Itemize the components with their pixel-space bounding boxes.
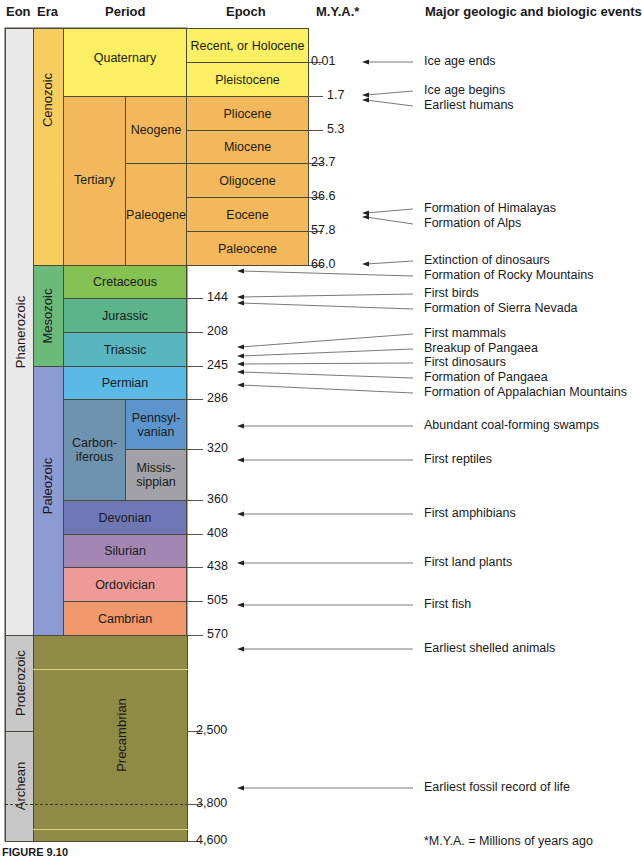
mya-label: 505	[207, 593, 228, 607]
period-devonian: Devonian	[63, 500, 187, 535]
mya-tick	[187, 366, 203, 367]
mya-label: 320	[207, 441, 228, 455]
event-label: Ice age ends	[424, 54, 496, 68]
mya-tick	[187, 449, 203, 450]
event-label: Formation of Himalayas	[424, 201, 556, 215]
period-tertiary: Tertiary	[63, 96, 126, 266]
epoch-recent-or-holocene: Recent, or Holocene	[186, 28, 309, 63]
subperiod-pennsyl-vanian: Pennsyl- vanian	[125, 399, 187, 450]
mya-label: 208	[207, 324, 228, 338]
event-label: Formation of Appalachian Mountains	[424, 385, 627, 399]
event-label: First fish	[424, 597, 471, 611]
epoch-miocene: Miocene	[186, 130, 309, 164]
precambrian-guide-line	[33, 829, 188, 830]
mya-label: 245	[207, 358, 228, 372]
event-label: Breakup of Pangaea	[424, 341, 538, 355]
mya-label: 66.0	[311, 257, 335, 271]
eon-proterozoic: Proterozoic	[5, 635, 34, 732]
event-label: First land plants	[424, 555, 512, 569]
precambrian-guide-line	[33, 669, 188, 670]
mya-tick	[309, 96, 323, 97]
mya-tick	[187, 399, 203, 400]
event-label: Extinction of dinosaurs	[424, 253, 550, 267]
era-label: Cenozoic	[41, 30, 55, 170]
era-mesozoic: Mesozoic	[33, 265, 64, 367]
era-cenozoic: Cenozoic	[33, 28, 64, 266]
epoch-pleistocene: Pleistocene	[186, 62, 309, 97]
event-label: Earliest humans	[424, 98, 514, 112]
event-label: Abundant coal-forming swamps	[424, 418, 599, 432]
mya-label: 438	[207, 559, 228, 573]
mya-label: 4,600	[196, 833, 227, 847]
mya-tick	[187, 332, 203, 333]
period-silurian: Silurian	[63, 534, 187, 568]
eon-archean: Archean	[5, 731, 34, 842]
event-label: Formation of Sierra Nevada	[424, 301, 578, 315]
archean-dashed-line	[5, 804, 188, 805]
period-permian: Permian	[63, 366, 187, 400]
epoch-oligocene: Oligocene	[186, 163, 309, 198]
era-label: Paleozoic	[41, 416, 55, 556]
mya-tick	[187, 601, 203, 602]
event-label: First amphibians	[424, 506, 516, 520]
event-label: Formation of Alps	[424, 216, 521, 230]
event-label: First birds	[424, 286, 479, 300]
mya-label: 5.3	[327, 122, 344, 136]
subperiod-paleogene: Paleogene	[125, 163, 187, 266]
mya-label: 0.01	[311, 54, 335, 68]
mya-tick	[187, 534, 203, 535]
era-precambrian: Precambrian	[33, 635, 188, 842]
event-label: Earliest fossil record of life	[424, 780, 570, 794]
eon-label: Archean	[14, 731, 28, 841]
period-cambrian: Cambrian	[63, 601, 187, 636]
subperiod-neogene: Neogene	[125, 96, 187, 164]
event-label: Earliest shelled animals	[424, 641, 555, 655]
period-carbon-iferous: Carbon- iferous	[63, 399, 126, 501]
era-label: Precambrian	[115, 665, 129, 805]
period-triassic: Triassic	[63, 332, 187, 367]
event-label: First dinosaurs	[424, 355, 506, 369]
mya-label: 1.7	[327, 88, 344, 102]
event-label: Formation of Rocky Mountains	[424, 268, 594, 282]
event-label: Formation of Pangaea	[424, 370, 548, 384]
period-ordovician: Ordovician	[63, 567, 187, 602]
footnote: *M.Y.A. = Millions of years ago	[424, 834, 593, 848]
epoch-paleocene: Paleocene	[186, 231, 309, 266]
event-label: First reptiles	[424, 452, 492, 466]
mya-label: 2,500	[196, 723, 227, 737]
mya-label: 3,800	[196, 796, 227, 810]
mya-label: 36.6	[311, 189, 335, 203]
mya-label: 23.7	[311, 155, 335, 169]
eon-label: Phanerozoic	[14, 28, 28, 635]
mya-label: 360	[207, 492, 228, 506]
period-cretaceous: Cretaceous	[63, 265, 187, 299]
eon-phanerozoic: Phanerozoic	[5, 28, 34, 636]
mya-label: 408	[207, 526, 228, 540]
mya-label: 286	[207, 391, 228, 405]
period-jurassic: Jurassic	[63, 298, 187, 333]
figure-label: FIGURE 9.10	[2, 846, 68, 858]
event-label: Ice age begins	[424, 83, 505, 97]
epoch-pliocene: Pliocene	[186, 96, 309, 131]
epoch-eocene: Eocene	[186, 197, 309, 232]
mya-label: 57.8	[311, 223, 335, 237]
eon-label: Proterozoic	[14, 635, 28, 731]
mya-tick	[187, 298, 203, 299]
mya-tick	[187, 500, 203, 501]
mya-tick	[187, 635, 203, 636]
subperiod-missis-sippian: Missis- sippian	[125, 449, 187, 501]
mya-label: 144	[207, 290, 228, 304]
mya-tick	[309, 130, 323, 131]
event-label: First mammals	[424, 326, 506, 340]
era-paleozoic: Paleozoic	[33, 366, 64, 636]
period-quaternary: Quaternary	[63, 28, 187, 97]
era-label: Mesozoic	[41, 246, 55, 386]
mya-tick	[187, 567, 203, 568]
mya-label: 570	[207, 627, 228, 641]
